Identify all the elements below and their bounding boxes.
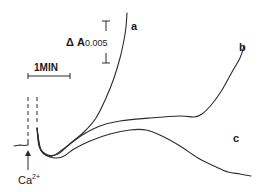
chart-canvas: Δ A 0.005 1MIN a b c Ca2+ [0, 0, 259, 192]
trace-a-label: a [131, 20, 138, 32]
delta-a-label: Δ A [66, 36, 85, 48]
trace-c [37, 128, 251, 176]
baseline-trace [14, 142, 28, 146]
absorbance-figure: Δ A 0.005 1MIN a b c Ca2+ [0, 0, 259, 192]
calcium-addition-marker: Ca2+ [18, 150, 40, 186]
time-scale-bar: 1MIN [28, 62, 70, 79]
ion-label: Ca2+ [18, 173, 40, 186]
delta-a-value: 0.005 [85, 38, 108, 48]
trace-c-label: c [233, 132, 239, 144]
arrow-head-icon [25, 150, 31, 156]
absorbance-scale-bar: Δ A 0.005 [66, 21, 110, 63]
time-scale-label: 1MIN [34, 62, 58, 73]
trace-b [37, 46, 244, 156]
trace-b-label: b [239, 41, 246, 53]
